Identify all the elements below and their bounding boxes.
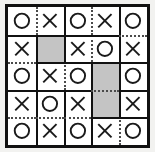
grid-cell-r5c3[interactable] xyxy=(64,117,92,145)
puzzle-grid-figure xyxy=(5,4,150,148)
cross-mark-icon xyxy=(64,35,92,63)
grid-cell-r2c1[interactable] xyxy=(8,35,36,63)
grid-cell-r5c2[interactable] xyxy=(36,117,64,145)
cross-mark-icon xyxy=(119,35,147,63)
circle-mark-icon xyxy=(119,62,147,90)
circle-mark-icon xyxy=(36,90,64,118)
grid-cell-r2c5[interactable] xyxy=(119,35,147,63)
cross-mark-icon xyxy=(64,90,92,118)
circle-mark-icon xyxy=(8,7,36,35)
grid-cell-r2c2[interactable] xyxy=(36,35,64,63)
circle-mark-icon xyxy=(8,62,36,90)
cross-mark-icon xyxy=(91,7,119,35)
grid-cell-r3c5[interactable] xyxy=(119,62,147,90)
circle-mark-icon xyxy=(64,62,92,90)
grid-cell-r5c1[interactable] xyxy=(8,117,36,145)
circle-mark-icon xyxy=(8,117,36,145)
cross-mark-icon xyxy=(8,35,36,63)
circle-mark-icon xyxy=(119,7,147,35)
grid-cell-r3c1[interactable] xyxy=(8,62,36,90)
cross-mark-icon xyxy=(8,90,36,118)
grid-cell-r4c1[interactable] xyxy=(8,90,36,118)
grid-cell-r3c2[interactable] xyxy=(36,62,64,90)
cross-mark-icon xyxy=(36,62,64,90)
circle-mark-icon xyxy=(64,117,92,145)
puzzle-grid[interactable] xyxy=(8,7,147,145)
cross-mark-icon xyxy=(36,7,64,35)
grid-cell-r4c3[interactable] xyxy=(64,90,92,118)
circle-mark-icon xyxy=(64,7,92,35)
grid-cell-r2c3[interactable] xyxy=(64,35,92,63)
grid-cell-r1c3[interactable] xyxy=(64,7,92,35)
grid-cell-r5c5[interactable] xyxy=(119,117,147,145)
cross-mark-icon xyxy=(91,117,119,145)
grid-cell-r3c4[interactable] xyxy=(91,62,119,90)
grid-cell-r4c4[interactable] xyxy=(91,90,119,118)
grid-cell-r5c4[interactable] xyxy=(91,117,119,145)
grid-cell-r1c5[interactable] xyxy=(119,7,147,35)
grid-cell-r2c4[interactable] xyxy=(91,35,119,63)
grid-cell-r4c5[interactable] xyxy=(119,90,147,118)
grid-cell-r1c1[interactable] xyxy=(8,7,36,35)
grid-cell-r4c2[interactable] xyxy=(36,90,64,118)
grid-cell-r3c3[interactable] xyxy=(64,62,92,90)
grid-cell-r1c4[interactable] xyxy=(91,7,119,35)
cross-mark-icon xyxy=(119,90,147,118)
circle-mark-icon xyxy=(119,117,147,145)
circle-mark-icon xyxy=(91,35,119,63)
cross-mark-icon xyxy=(36,117,64,145)
grid-cell-r1c2[interactable] xyxy=(36,7,64,35)
